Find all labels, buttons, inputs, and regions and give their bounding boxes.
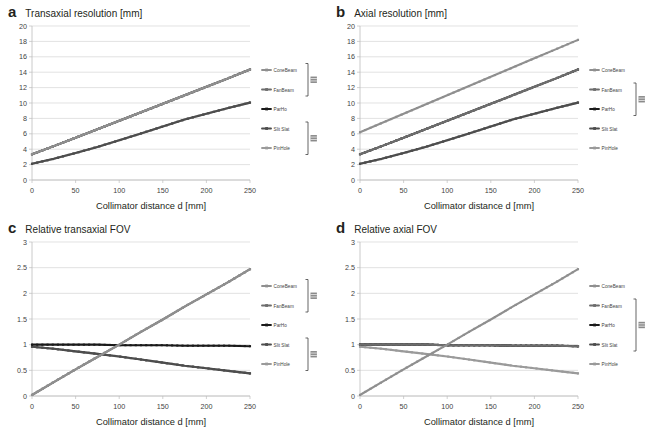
svg-text:Collimator distance d [mm]: Collimator distance d [mm] [96, 201, 206, 211]
svg-text:1.5: 1.5 [345, 315, 355, 324]
svg-text:ParHo: ParHo [602, 107, 616, 112]
panel-letter: c [8, 220, 16, 235]
svg-text:50: 50 [72, 186, 80, 195]
svg-text:4: 4 [23, 145, 27, 154]
svg-text:8: 8 [23, 114, 27, 123]
svg-text:2: 2 [23, 289, 27, 298]
chart-d: 00.511.522.53050100150200250Collimator d… [328, 234, 655, 432]
svg-text:0: 0 [358, 186, 362, 195]
svg-text:1: 1 [351, 340, 355, 349]
svg-text:FanBeam: FanBeam [602, 304, 622, 309]
panel-a-heading: a Transaxial resolution [mm] [8, 4, 142, 19]
svg-text:ConeBeam: ConeBeam [602, 68, 626, 73]
svg-text:2.5: 2.5 [17, 263, 27, 272]
svg-text:Slit Slat: Slit Slat [602, 127, 619, 132]
panel-b: b Axial resolution [mm] 0246810121416182… [328, 0, 655, 216]
svg-text:PinHole: PinHole [274, 362, 291, 367]
svg-text:14: 14 [19, 68, 27, 77]
svg-text:100: 100 [113, 186, 125, 195]
svg-text:12: 12 [347, 83, 355, 92]
svg-text:100: 100 [441, 402, 453, 411]
svg-text:0: 0 [30, 186, 34, 195]
svg-text:18: 18 [347, 37, 355, 46]
chart-c: 00.511.522.53050100150200250Collimator d… [0, 234, 327, 432]
svg-text:0: 0 [23, 392, 27, 401]
svg-text:20: 20 [19, 22, 27, 31]
svg-text:FanBeam: FanBeam [602, 88, 622, 93]
svg-text:250: 250 [572, 402, 584, 411]
svg-text:3: 3 [351, 238, 355, 247]
svg-text:20: 20 [347, 22, 355, 31]
svg-text:16: 16 [19, 52, 27, 61]
svg-text:0: 0 [358, 402, 362, 411]
svg-text:8: 8 [351, 114, 355, 123]
svg-text:50: 50 [400, 186, 408, 195]
panel-d-heading: d Relative axial FOV [336, 220, 437, 235]
svg-text:0.5: 0.5 [345, 366, 355, 375]
panel-letter: b [336, 4, 345, 19]
svg-text:0.5: 0.5 [17, 366, 27, 375]
svg-text:6: 6 [23, 129, 27, 138]
chart-a: 02468101214161820050100150200250Collimat… [0, 18, 327, 216]
svg-text:100: 100 [113, 402, 125, 411]
panel-letter: a [8, 4, 16, 19]
svg-text:FanBeam: FanBeam [274, 304, 294, 309]
svg-text:250: 250 [572, 186, 584, 195]
svg-text:200: 200 [528, 186, 540, 195]
svg-text:200: 200 [528, 402, 540, 411]
svg-text:ConeBeam: ConeBeam [602, 284, 626, 289]
panel-c-heading: c Relative transaxial FOV [8, 220, 130, 235]
svg-text:0: 0 [351, 392, 355, 401]
svg-text:0: 0 [351, 176, 355, 185]
svg-text:4: 4 [351, 145, 355, 154]
panel-letter: d [336, 220, 345, 235]
svg-text:10: 10 [19, 99, 27, 108]
figure-panel-grid: a Transaxial resolution [mm] 02468101214… [0, 0, 655, 432]
svg-text:ConeBeam: ConeBeam [274, 68, 298, 73]
svg-text:ParHo: ParHo [602, 323, 616, 328]
panel-d: d Relative axial FOV 00.511.522.53050100… [328, 216, 655, 432]
svg-text:3: 3 [23, 238, 27, 247]
svg-text:ConeBeam: ConeBeam [274, 284, 298, 289]
svg-text:PinHole: PinHole [602, 362, 619, 367]
svg-text:2: 2 [351, 160, 355, 169]
svg-text:50: 50 [72, 402, 80, 411]
svg-text:0: 0 [23, 176, 27, 185]
svg-text:PinHole: PinHole [602, 146, 619, 151]
svg-text:Slit Slat: Slit Slat [274, 343, 291, 348]
svg-text:200: 200 [200, 402, 212, 411]
svg-text:Slit Slat: Slit Slat [274, 127, 291, 132]
svg-text:250: 250 [244, 186, 256, 195]
svg-text:250: 250 [244, 402, 256, 411]
svg-text:16: 16 [347, 52, 355, 61]
svg-text:100: 100 [441, 186, 453, 195]
svg-text:ParHo: ParHo [274, 107, 288, 112]
svg-text:1: 1 [23, 340, 27, 349]
svg-text:ParHo: ParHo [274, 323, 288, 328]
svg-text:FanBeam: FanBeam [274, 88, 294, 93]
svg-text:12: 12 [19, 83, 27, 92]
svg-text:18: 18 [19, 37, 27, 46]
svg-text:50: 50 [400, 402, 408, 411]
svg-text:200: 200 [200, 186, 212, 195]
svg-text:Slit Slat: Slit Slat [602, 343, 619, 348]
svg-text:2.5: 2.5 [345, 263, 355, 272]
svg-text:6: 6 [351, 129, 355, 138]
svg-text:14: 14 [347, 68, 355, 77]
svg-text:Collimator distance d [mm]: Collimator distance d [mm] [96, 417, 206, 427]
svg-text:PinHole: PinHole [274, 146, 291, 151]
svg-text:10: 10 [347, 99, 355, 108]
svg-text:150: 150 [157, 186, 169, 195]
svg-text:1.5: 1.5 [17, 315, 27, 324]
chart-b: 02468101214161820050100150200250Collimat… [328, 18, 655, 216]
panel-c: c Relative transaxial FOV 00.511.522.530… [0, 216, 327, 432]
svg-text:0: 0 [30, 402, 34, 411]
svg-text:Collimator distance d [mm]: Collimator distance d [mm] [424, 417, 534, 427]
panel-a: a Transaxial resolution [mm] 02468101214… [0, 0, 327, 216]
svg-text:150: 150 [157, 402, 169, 411]
svg-text:2: 2 [351, 289, 355, 298]
svg-text:150: 150 [485, 186, 497, 195]
svg-text:150: 150 [485, 402, 497, 411]
svg-text:2: 2 [23, 160, 27, 169]
svg-text:Collimator distance d [mm]: Collimator distance d [mm] [424, 201, 534, 211]
